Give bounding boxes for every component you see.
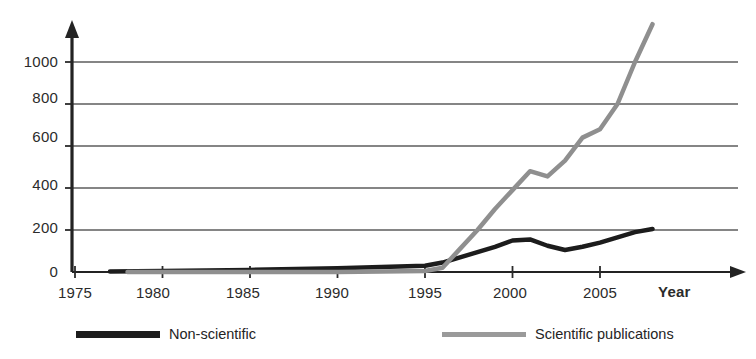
axis-lines [65,20,746,278]
x-tick-label-1975: 1975 [45,284,105,301]
line-chart: 1000 800 600 400 200 0 1975 1980 1985 19… [0,0,756,359]
plot-area [0,0,756,318]
x-axis-arrow [730,266,746,278]
chart-legend: Non-scientific Scientific publications [0,318,756,359]
y-tick-label-800: 800 [4,89,58,106]
y-tick-label-200: 200 [4,219,58,236]
legend-item-non-scientific: Non-scientific [76,326,256,342]
x-tick-label-1980: 1980 [123,284,183,301]
grey-line-swatch [442,332,526,337]
y-tick-label-0: 0 [4,263,58,280]
y-tick-label-400: 400 [4,176,58,193]
x-tick-label-1995: 1995 [395,284,455,301]
legend-label-scientific-publications: Scientific publications [535,326,674,342]
dark-line-swatch [76,331,160,338]
x-tick-label-2005: 2005 [570,284,630,301]
x-axis-title: Year [658,283,691,300]
x-tick-label-1990: 1990 [302,284,362,301]
series-line-non-scientific [110,229,653,272]
x-tick-label-2000: 2000 [480,284,540,301]
y-tick-label-600: 600 [4,128,58,145]
y-axis-arrow [65,20,79,38]
y-tick-label-1000: 1000 [4,53,58,70]
x-tick-label-1985: 1985 [213,284,273,301]
gridlines [65,62,738,230]
legend-label-non-scientific: Non-scientific [169,326,256,342]
legend-item-scientific-publications: Scientific publications [442,326,674,342]
